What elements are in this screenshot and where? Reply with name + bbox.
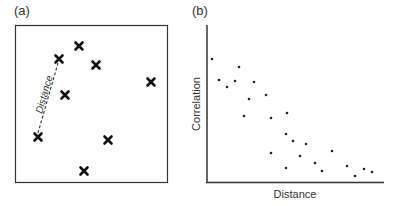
scatter-point bbox=[314, 162, 317, 165]
scatter-point bbox=[211, 58, 214, 61]
scatter-point bbox=[234, 80, 237, 83]
scatter-point bbox=[218, 79, 221, 82]
panel-a-points bbox=[35, 43, 155, 175]
cross-marker bbox=[76, 43, 83, 50]
scatter-point bbox=[305, 143, 308, 146]
scatter-point bbox=[265, 94, 268, 97]
cross-marker bbox=[62, 92, 69, 99]
scatter-point bbox=[363, 168, 366, 171]
scatter-point bbox=[371, 171, 374, 174]
scatter-points bbox=[211, 58, 374, 178]
scatter-point bbox=[346, 165, 349, 168]
scatter-point bbox=[321, 170, 324, 173]
scatter-point bbox=[286, 112, 289, 115]
scatter-point bbox=[226, 86, 229, 89]
scatter-point bbox=[238, 66, 241, 69]
scatter-point bbox=[248, 98, 251, 101]
figure-canvas: Distance Distance Correlation bbox=[0, 0, 397, 206]
scatter-point bbox=[270, 152, 273, 155]
scatter-point bbox=[292, 140, 295, 143]
scatter-point bbox=[285, 167, 288, 170]
scatter-point bbox=[285, 133, 288, 136]
scatter-point bbox=[253, 81, 256, 84]
scatter-point bbox=[243, 115, 246, 118]
cross-marker bbox=[105, 137, 112, 144]
scatter-point bbox=[354, 175, 357, 178]
cross-marker bbox=[81, 168, 88, 175]
scatter-point bbox=[270, 117, 273, 120]
distance-annotation: Distance bbox=[33, 74, 54, 115]
cross-marker bbox=[93, 62, 100, 69]
scatter-point bbox=[331, 150, 334, 153]
y-axis-label: Correlation bbox=[190, 77, 202, 131]
cross-marker bbox=[56, 56, 63, 63]
cross-marker bbox=[148, 79, 155, 86]
cross-marker bbox=[35, 134, 42, 141]
scatter-point bbox=[299, 155, 302, 158]
x-axis-label: Distance bbox=[274, 188, 317, 200]
